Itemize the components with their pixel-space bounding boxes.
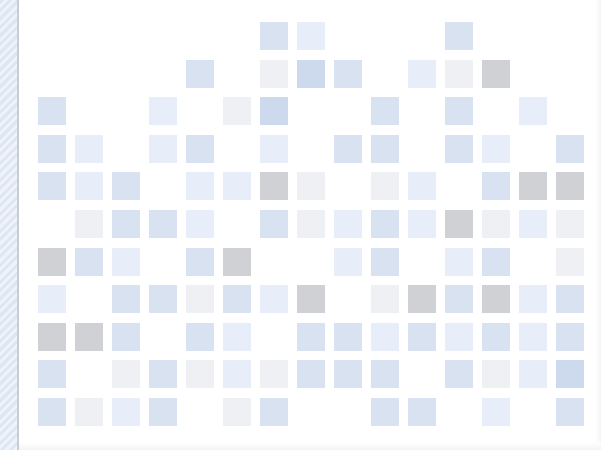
grid-tile xyxy=(186,248,214,276)
grid-tile xyxy=(260,97,288,125)
grid-tile xyxy=(482,60,510,88)
grid-tile xyxy=(186,172,214,200)
grid-tile xyxy=(371,360,399,388)
grid-tile xyxy=(371,97,399,125)
grid-tile xyxy=(519,323,547,351)
grid-tile xyxy=(260,60,288,88)
grid-tile xyxy=(186,135,214,163)
grid-tile xyxy=(482,248,510,276)
grid-tile xyxy=(112,360,140,388)
right-edge-shadow xyxy=(595,0,601,450)
grid-tile xyxy=(482,360,510,388)
grid-tile xyxy=(75,135,103,163)
grid-tile xyxy=(260,135,288,163)
grid-tile xyxy=(112,398,140,426)
grid-tile xyxy=(75,172,103,200)
grid-tile xyxy=(149,398,177,426)
grid-tile xyxy=(38,97,66,125)
grid-tile xyxy=(186,210,214,238)
grid-tile xyxy=(408,285,436,313)
grid-tile xyxy=(408,172,436,200)
grid-tile xyxy=(519,97,547,125)
grid-tile xyxy=(38,285,66,313)
grid-tile xyxy=(149,210,177,238)
grid-tile xyxy=(75,210,103,238)
grid-tile xyxy=(149,360,177,388)
grid-tile xyxy=(371,285,399,313)
grid-tile xyxy=(38,135,66,163)
grid-tile xyxy=(482,210,510,238)
grid-tile xyxy=(297,323,325,351)
grid-tile xyxy=(556,323,584,351)
grid-tile xyxy=(75,248,103,276)
grid-tile xyxy=(445,210,473,238)
grid-tile xyxy=(408,398,436,426)
grid-tile xyxy=(112,172,140,200)
grid-tile xyxy=(519,172,547,200)
grid-tile xyxy=(445,22,473,50)
grid-tile xyxy=(75,398,103,426)
grid-tile xyxy=(260,360,288,388)
grid-tile xyxy=(223,248,251,276)
grid-tile xyxy=(408,323,436,351)
grid-tile xyxy=(519,210,547,238)
grid-tile xyxy=(297,285,325,313)
grid-tile xyxy=(186,60,214,88)
grid-tile xyxy=(482,285,510,313)
grid-tile xyxy=(519,360,547,388)
grid-tile xyxy=(556,135,584,163)
grid-tile xyxy=(149,97,177,125)
grid-tile xyxy=(371,323,399,351)
grid-tile xyxy=(149,285,177,313)
grid-tile xyxy=(112,210,140,238)
grid-tile xyxy=(334,360,362,388)
grid-tile xyxy=(223,285,251,313)
grid-tile xyxy=(445,285,473,313)
grid-tile xyxy=(112,323,140,351)
grid-tile xyxy=(260,22,288,50)
grid-tile xyxy=(260,285,288,313)
grid-tile xyxy=(482,135,510,163)
grid-tile xyxy=(297,210,325,238)
grid-tile xyxy=(223,97,251,125)
grid-tile xyxy=(186,360,214,388)
grid-tile xyxy=(260,172,288,200)
grid-tile xyxy=(38,323,66,351)
bottom-edge-shadow xyxy=(19,442,601,450)
grid-tile xyxy=(371,172,399,200)
grid-tile xyxy=(445,135,473,163)
grid-tile xyxy=(482,323,510,351)
grid-tile xyxy=(149,135,177,163)
grid-tile xyxy=(223,323,251,351)
grid-tile xyxy=(371,135,399,163)
grid-tile xyxy=(482,172,510,200)
grid-tile xyxy=(371,248,399,276)
grid-tile xyxy=(112,248,140,276)
grid-tile xyxy=(297,360,325,388)
grid-tile xyxy=(482,398,510,426)
grid-tile xyxy=(297,60,325,88)
grid-tile xyxy=(408,60,436,88)
grid-tile xyxy=(556,210,584,238)
tile-grid xyxy=(0,0,601,450)
grid-tile xyxy=(445,360,473,388)
grid-tile xyxy=(408,210,436,238)
grid-tile xyxy=(556,248,584,276)
grid-tile xyxy=(334,135,362,163)
grid-tile xyxy=(334,210,362,238)
grid-tile xyxy=(371,398,399,426)
grid-tile xyxy=(186,323,214,351)
grid-tile xyxy=(260,398,288,426)
grid-tile xyxy=(445,97,473,125)
grid-tile xyxy=(334,60,362,88)
grid-tile xyxy=(445,60,473,88)
grid-tile xyxy=(223,360,251,388)
grid-tile xyxy=(297,172,325,200)
grid-tile xyxy=(38,398,66,426)
grid-tile xyxy=(112,285,140,313)
grid-tile xyxy=(371,210,399,238)
grid-tile xyxy=(223,398,251,426)
grid-tile xyxy=(556,398,584,426)
grid-tile xyxy=(260,210,288,238)
grid-tile xyxy=(445,248,473,276)
